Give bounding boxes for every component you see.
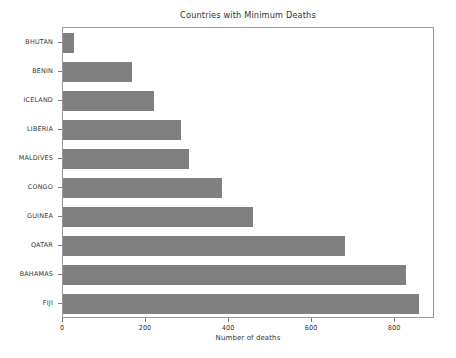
- x-tick-label: 600: [305, 324, 318, 332]
- chart-title: Countries with Minimum Deaths: [62, 10, 434, 20]
- y-tick-mark: [58, 129, 62, 130]
- y-tick-mark: [58, 303, 62, 304]
- bar: [63, 178, 222, 198]
- x-tick-label: 200: [139, 324, 152, 332]
- y-tick-label: BENIN: [32, 67, 53, 75]
- x-tick-label: 800: [388, 324, 401, 332]
- x-axis-title: Number of deaths: [62, 334, 434, 342]
- y-tick-label: MALDIVES: [19, 154, 53, 162]
- bar: [63, 294, 419, 314]
- plot-area: [62, 27, 434, 318]
- x-tick-mark: [311, 318, 312, 322]
- bar: [63, 62, 132, 82]
- y-tick-mark: [58, 245, 62, 246]
- y-tick-mark: [58, 187, 62, 188]
- y-tick-label: CONGO: [28, 183, 53, 191]
- bar: [63, 149, 189, 169]
- y-tick-mark: [58, 100, 62, 101]
- y-tick-label: BHUTAN: [25, 38, 53, 46]
- y-tick-label: QATAR: [31, 241, 53, 249]
- y-tick-label: LIBERIA: [27, 125, 53, 133]
- bar: [63, 207, 253, 227]
- x-tick-mark: [145, 318, 146, 322]
- chart-figure: Countries with Minimum Deaths BHUTANBENI…: [0, 0, 456, 358]
- y-tick-mark: [58, 216, 62, 217]
- bar: [63, 236, 345, 256]
- y-tick-label: GUINEA: [27, 212, 53, 220]
- y-tick-mark: [58, 71, 62, 72]
- x-tick-mark: [228, 318, 229, 322]
- y-axis-ticks: BHUTANBENINICELANDLIBERIAMALDIVESCONGOGU…: [0, 27, 62, 318]
- x-tick-label: 400: [222, 324, 235, 332]
- bars-layer: [63, 28, 433, 317]
- x-tick-mark: [394, 318, 395, 322]
- x-tick-label: 0: [60, 324, 64, 332]
- y-tick-label: ICELAND: [23, 96, 53, 104]
- y-tick-label: FIJI: [43, 299, 53, 307]
- bar: [63, 91, 154, 111]
- y-tick-label: BAHAMAS: [20, 270, 53, 278]
- bar: [63, 120, 181, 140]
- bar: [63, 33, 74, 53]
- x-tick-mark: [62, 318, 63, 322]
- y-tick-mark: [58, 42, 62, 43]
- bar: [63, 265, 406, 285]
- y-tick-mark: [58, 274, 62, 275]
- y-tick-mark: [58, 158, 62, 159]
